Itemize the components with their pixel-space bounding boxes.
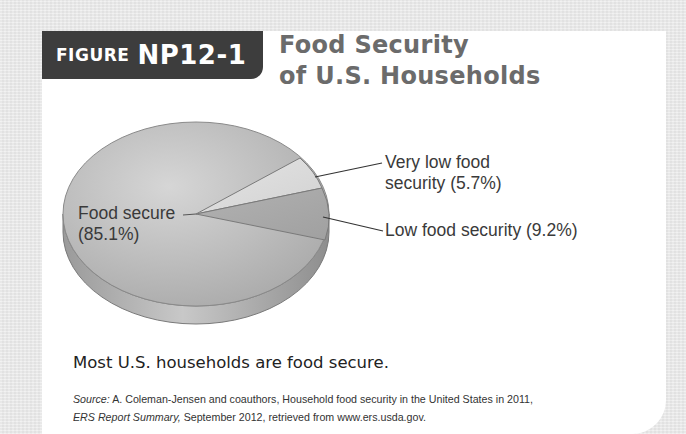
source-line-1: Source: A. Coleman-Jensen and coauthors,… (73, 390, 533, 408)
label-food-secure: Food secure (85.1%) (78, 203, 175, 245)
source-line-1-text: A. Coleman-Jensen and coauthors, Househo… (110, 392, 533, 405)
label-very-low-line-2: security (5.7%) (385, 173, 502, 194)
leader-line-low (323, 217, 383, 231)
label-very-low-food-security: Very low food security (5.7%) (385, 152, 502, 194)
figure-caption: Most U.S. households are food secure. (73, 353, 389, 372)
label-food-secure-line-2: (85.1%) (78, 224, 175, 245)
leader-line-very-low (315, 163, 382, 177)
source-prefix: Source: (73, 392, 110, 405)
label-very-low-line-1: Very low food (385, 152, 502, 173)
label-low-food-security: Low food security (9.2%) (385, 220, 578, 241)
source-citation: Source: A. Coleman-Jensen and coauthors,… (73, 390, 533, 426)
source-line-2: ERS Report Summary, September 2012, retr… (73, 408, 533, 426)
source-line-2-text: September 2012, retrieved from www.ers.u… (181, 410, 426, 423)
source-report-title: ERS Report Summary, (73, 410, 181, 423)
label-food-secure-line-1: Food secure (78, 203, 175, 224)
